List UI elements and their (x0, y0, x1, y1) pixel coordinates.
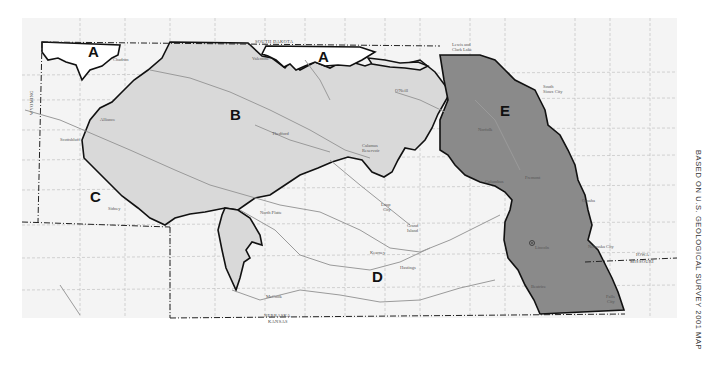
map-credit: BASED ON U.S. GEOLOGICAL SURVEY 2001 MAP (694, 150, 703, 350)
state-kansas: KANSAS (268, 319, 288, 324)
city-norfolk: Norfolk (478, 127, 493, 132)
city-beatrice: Beatrice (531, 284, 546, 289)
city-falls-city-2: City (607, 299, 616, 304)
city-south-sioux-2: Sioux City (543, 89, 563, 94)
city-chadron: Chadron (113, 57, 129, 62)
city-fremont: Fremont (525, 175, 541, 180)
lake-lewis-clark-2: Clark Lake (452, 47, 472, 52)
city-oneill: O'Neill (395, 88, 409, 93)
state-iowa: IOWA (636, 252, 649, 257)
city-kearney: Kearney (370, 250, 386, 255)
region-label-e: E (500, 102, 510, 119)
city-north-platte: North Platte (260, 210, 282, 215)
city-omaha: Omaha (582, 198, 595, 203)
region-label-b: B (230, 106, 241, 123)
state-nebraska: NEBRASKA (264, 313, 291, 318)
region-label-c: C (90, 188, 101, 205)
city-columbus: Columbus (485, 179, 504, 184)
city-hastings: Hastings (400, 265, 416, 270)
reservoir-calamus-2: Reservoir (362, 148, 380, 153)
state-missouri: MISSOURI (630, 259, 654, 264)
nebraska-regions-map: A A B C D E SOUTH DAKOTA WYOMING NEBRASK… (0, 0, 705, 369)
capital-dot-icon (531, 242, 533, 244)
city-lincoln: Lincoln (535, 245, 550, 250)
city-mccook: McCook (266, 294, 283, 299)
city-thedford: Thedford (272, 131, 289, 136)
city-nebraska-city: Nebraska City (588, 244, 615, 249)
city-valentine: Valentine (252, 56, 269, 61)
region-label-d: D (372, 268, 383, 285)
state-wyoming: WYOMING (29, 90, 34, 115)
region-label-a-west: A (88, 43, 99, 60)
city-grand-island-2: Island (407, 228, 419, 233)
city-loup-city-2: City (383, 207, 392, 212)
city-sidney: Sidney (108, 206, 121, 211)
region-label-a-north: A (318, 48, 329, 65)
city-alliance: Alliance (100, 117, 115, 122)
state-south-dakota: SOUTH DAKOTA (255, 39, 294, 44)
map-canvas: A A B C D E SOUTH DAKOTA WYOMING NEBRASK… (0, 0, 705, 369)
city-scottsbluff: Scottsbluff (60, 137, 80, 142)
